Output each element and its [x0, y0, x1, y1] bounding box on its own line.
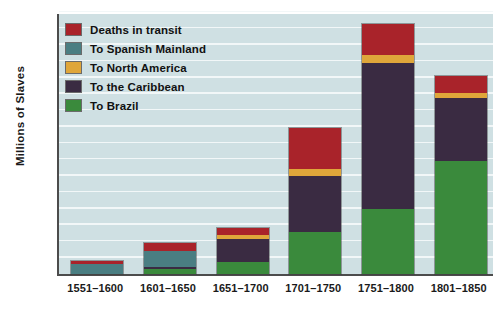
gridline — [59, 125, 493, 127]
figure-caption — [8, 303, 492, 310]
bar-segment-to-spanish-mainland — [144, 251, 196, 267]
bar-segment-to-brazil — [435, 161, 487, 274]
gridline — [59, 142, 493, 144]
bar-segment-deaths-in-transit — [289, 128, 341, 169]
bar-1751-1800[interactable] — [362, 24, 414, 274]
legend-item-label: Deaths in transit — [90, 24, 182, 36]
bar-segment-to-north-america — [362, 55, 414, 63]
gridline — [59, 191, 493, 193]
legend-item-to-spanish-mainland[interactable]: To Spanish Mainland — [65, 39, 206, 58]
bar-segment-to-spanish-mainland — [71, 264, 123, 274]
legend-item-label: To Spanish Mainland — [90, 43, 206, 55]
chart-figure: Millions of Slaves 1234 1551–16001601–16… — [0, 0, 500, 310]
bar-segment-to-the-caribbean — [289, 176, 341, 232]
gridline — [59, 158, 493, 160]
gridline — [59, 256, 493, 258]
gridline — [59, 240, 493, 242]
gridline — [59, 223, 493, 225]
bar-1551-1600[interactable] — [71, 261, 123, 274]
bar-segment-deaths-in-transit — [144, 243, 196, 251]
bar-segment-to-brazil — [217, 262, 269, 274]
gridline — [59, 174, 493, 176]
legend-item-label: To Brazil — [90, 100, 139, 112]
bar-segment-to-the-caribbean — [362, 63, 414, 208]
legend-item-to-the-caribbean[interactable]: To the Caribbean — [65, 77, 206, 96]
bar-segment-to-brazil — [289, 232, 341, 274]
bar-segment-deaths-in-transit — [362, 24, 414, 55]
bar-1601-1650[interactable] — [144, 243, 196, 274]
legend-item-to-north-america[interactable]: To North America — [65, 58, 206, 77]
x-tick-label: 1801–1850 — [416, 282, 500, 294]
bar-segment-to-north-america — [289, 169, 341, 177]
bar-segment-to-brazil — [144, 269, 196, 274]
legend-swatch-icon — [65, 61, 82, 74]
bar-segment-to-the-caribbean — [217, 239, 269, 263]
bar-1701-1750[interactable] — [289, 128, 341, 274]
bar-segment-to-brazil — [362, 209, 414, 275]
legend-swatch-icon — [65, 99, 82, 112]
y-axis-title: Millions of Slaves — [14, 51, 26, 181]
legend-item-to-brazil[interactable]: To Brazil — [65, 96, 206, 115]
legend-item-label: To North America — [90, 62, 187, 74]
bar-segment-deaths-in-transit — [217, 228, 269, 236]
gridline — [59, 11, 493, 13]
chart-legend: Deaths in transitTo Spanish MainlandTo N… — [65, 20, 206, 115]
bar-segment-deaths-in-transit — [435, 76, 487, 94]
legend-item-label: To the Caribbean — [90, 81, 185, 93]
legend-swatch-icon — [65, 23, 82, 36]
bar-1651-1700[interactable] — [217, 228, 269, 274]
bar-segment-to-the-caribbean — [435, 98, 487, 160]
gridline — [59, 207, 493, 209]
legend-swatch-icon — [65, 42, 82, 55]
bar-1801-1850[interactable] — [435, 76, 487, 274]
legend-item-deaths-in-transit[interactable]: Deaths in transit — [65, 20, 206, 39]
legend-swatch-icon — [65, 80, 82, 93]
